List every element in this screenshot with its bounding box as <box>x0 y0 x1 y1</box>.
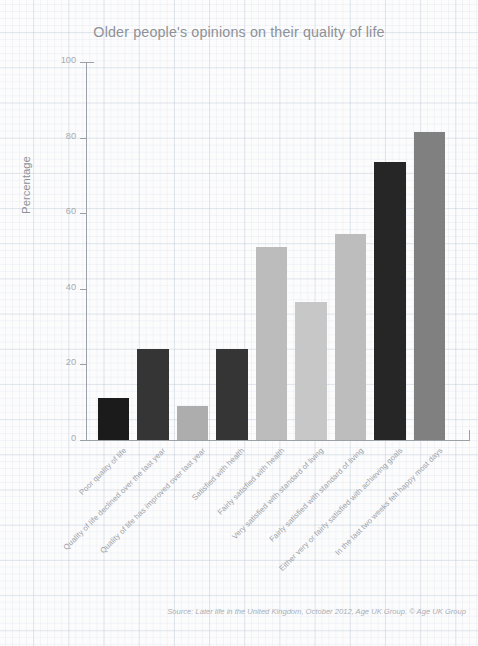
bar <box>414 132 446 440</box>
y-axis-tick-label: 100 <box>61 55 76 65</box>
bar <box>98 398 130 440</box>
x-axis-category-label: Fairly satisfied with health <box>215 446 286 517</box>
y-axis-tick: 40 <box>80 289 87 290</box>
y-axis-tick-label: 80 <box>66 131 76 141</box>
plot-area: 020406080100 Poor quality of lifeQuality… <box>86 62 470 440</box>
y-axis-top-cap <box>86 62 94 63</box>
y-axis-tick: 60 <box>80 213 87 214</box>
bar <box>295 302 327 440</box>
y-axis-tick-label: 60 <box>66 206 76 216</box>
bar <box>374 162 406 440</box>
y-axis-tick: 80 <box>80 138 87 139</box>
y-axis-tick: 20 <box>80 364 87 365</box>
y-axis-tick-label: 0 <box>71 433 76 443</box>
bar <box>216 349 248 440</box>
y-axis-line <box>86 62 87 440</box>
chart-page: Older people's opinions on their quality… <box>0 0 478 646</box>
bar <box>256 247 288 440</box>
bar <box>137 349 169 440</box>
x-axis-end-cap <box>469 430 470 441</box>
y-axis-label: Percentage <box>20 156 32 214</box>
source-note: Source: Later life in the United Kingdom… <box>0 607 466 616</box>
x-axis-line <box>86 440 470 441</box>
y-axis-tick-label: 20 <box>66 357 76 367</box>
y-axis-tick: 100 <box>80 62 87 63</box>
y-axis-tick-label: 40 <box>66 282 76 292</box>
bar <box>335 234 367 440</box>
page-title: Older people's opinions on their quality… <box>0 24 478 40</box>
bar <box>177 406 209 440</box>
y-axis-tick: 0 <box>80 440 87 441</box>
